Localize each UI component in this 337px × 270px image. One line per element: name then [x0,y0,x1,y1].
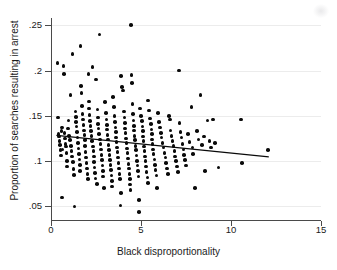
scatter-point [65,151,69,155]
scatter-point [116,156,120,160]
scatter-point [134,148,138,152]
scatter-point [176,170,180,174]
scatter-point [82,129,86,133]
scatter-point [163,151,167,155]
scatter-point [130,81,134,85]
scatter-point [127,167,131,171]
scatter-point [95,182,99,186]
scatter-point [78,163,82,167]
scatter-point [266,148,270,152]
scatter-point [75,130,79,134]
y-tick [45,206,51,207]
scatter-point [203,169,207,173]
scatter-point [92,160,96,164]
scatter-point [90,134,94,138]
scatter-point [186,132,190,136]
scatter-point [199,93,203,97]
scatter-point [148,117,152,121]
y-axis-label: Proportion of searches resulting in arre… [9,1,20,221]
scatter-point [137,210,141,214]
scatter-point [132,129,136,133]
scatter-point [92,155,96,159]
y-tick [45,161,51,162]
scatter-point [93,171,97,175]
scatter-point [128,177,132,181]
scatter-point [125,147,129,151]
scatter-point [100,158,104,162]
scatter-point [156,111,160,115]
scatter-point [168,118,172,122]
scatter-point [183,158,187,162]
scatter-point [100,153,104,157]
scatter-point [151,148,155,152]
scatter-point [83,133,87,137]
scatter-point [104,111,108,115]
scatter-point [213,141,217,145]
scatter-point [127,162,131,166]
scatter-point [110,179,114,183]
x-tick-label: 0 [36,224,66,235]
scatter-point [92,149,96,153]
scatter-point [79,84,83,88]
scatter-point [112,105,116,109]
y-tick-label: .15 [0,111,42,121]
scatter-point [122,110,126,114]
scatter-point [90,139,94,143]
y-tick [45,116,51,117]
scatter-point [141,129,145,133]
scatter-point [175,165,179,169]
scatter-point [150,138,154,142]
scatter-point [191,152,195,156]
scatter-point [98,138,102,142]
scatter-point [132,124,136,128]
scatter-point [152,152,156,156]
scatter-point [118,177,122,181]
scatter-point [111,95,115,99]
scatter-point [105,128,109,132]
scatter-point [129,23,133,27]
scatter-point [108,158,112,162]
scatter-point [131,102,135,106]
scatter-point [77,152,81,156]
scatter-point [82,123,86,127]
scatter-point [208,139,212,143]
scatter-point [118,172,122,176]
scatter-point [96,116,100,120]
scatter-point [172,144,176,148]
x-axis-label: Black disproportionality [0,246,337,257]
scatter-point [113,120,117,124]
scatter-point [195,129,199,133]
scatter-point [91,145,95,149]
scatter-point [87,72,91,76]
scatter-point [193,186,197,190]
y-tick-label: .1 [0,156,42,166]
scatter-point [128,172,132,176]
scatter-point [86,177,90,181]
scatter-point [200,143,204,147]
scatter-point [135,159,139,163]
scatter-point [97,132,101,136]
scatter-point [68,138,72,142]
scatter-point [240,161,244,165]
scatter-point [126,151,130,155]
scatter-point [63,137,67,141]
scatter-point [113,114,117,118]
scatter-point [182,153,186,157]
scatter-point [164,161,168,165]
gridline [51,25,321,26]
scatter-point [74,115,78,119]
scatter-point [60,126,64,130]
scatter-point [158,126,162,130]
scatter-point [147,109,151,113]
scatter-point [81,118,85,122]
gridline [51,116,321,117]
y-tick [45,25,51,26]
scatter-point [131,112,135,116]
scatter-point [139,114,143,118]
y-tick [45,71,51,72]
scatter-point [86,172,90,176]
scatter-point [181,142,185,146]
scatter-point [65,159,69,163]
scatter-point [123,121,127,125]
scatter-point [89,124,93,128]
